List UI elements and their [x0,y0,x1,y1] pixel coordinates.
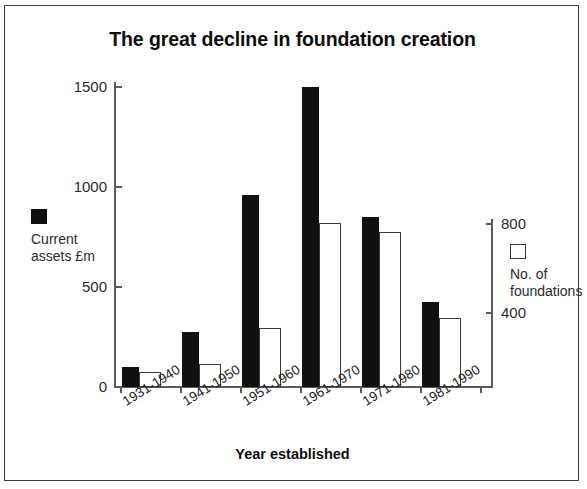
legend-right-line1: No. of [510,266,582,283]
bar-light-1971-1980 [379,232,401,387]
left-tick-1500 [115,86,122,88]
x-tick-6 [480,387,482,393]
x-tick-3 [300,387,302,393]
left-y-axis-line [114,82,116,387]
right-tick-800 [486,223,493,225]
left-tick-label-500: 500 [55,278,107,295]
right-tick-label-400: 400 [501,304,526,321]
x-tick-2 [240,387,242,393]
plot-area: 1500 1000 500 0 800 400 [5,6,580,482]
legend-swatch-dark-square-icon [31,209,47,224]
right-tick-label-800: 800 [501,215,526,232]
bar-dark-1941-1950 [182,332,199,387]
bar-light-1961-1970 [319,223,341,387]
x-tick-0 [120,387,122,393]
bar-dark-1971-1980 [362,217,379,387]
right-tick-400 [486,312,493,314]
right-y-axis-line [491,219,493,387]
x-tick-1 [180,387,182,393]
x-tick-5 [420,387,422,393]
bar-dark-1931-1940 [122,367,139,387]
left-tick-label-0: 0 [55,378,107,395]
x-axis-title: Year established [5,446,580,462]
bar-dark-1951-1960 [242,195,259,387]
legend-right-line2: foundations [510,283,582,300]
bar-dark-1961-1970 [302,87,319,387]
legend-no-of-foundations: No. of foundations [510,244,582,300]
left-tick-1000 [115,186,122,188]
chart-frame: The great decline in foundation creation… [4,5,579,481]
left-tick-500 [115,286,122,288]
left-tick-label-1000: 1000 [55,178,107,195]
legend-swatch-white-square-icon [510,244,526,259]
bar-dark-1981-1990 [422,302,439,387]
legend-left-line1: Current [31,231,95,248]
x-tick-4 [360,387,362,393]
legend-left-line2: assets £m [31,248,95,265]
legend-current-assets: Current assets £m [31,209,95,265]
left-tick-label-1500: 1500 [55,78,107,95]
